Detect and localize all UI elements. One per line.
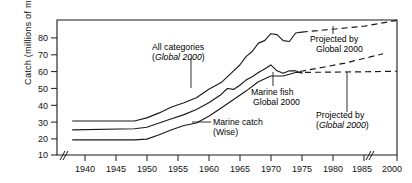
x-tick-1945: 1945 bbox=[106, 164, 126, 174]
x-tick-2000: 2000 bbox=[382, 164, 402, 174]
annotation-projected-bottom-line2: (Global 2000) bbox=[316, 120, 369, 130]
y-tick-50: 50 bbox=[38, 84, 48, 94]
series-all-categories-projection bbox=[302, 20, 397, 32]
x-axis-ticks bbox=[85, 155, 397, 161]
annotation-marine-catch-line2: (Wise) bbox=[213, 127, 238, 137]
y-tick-20: 20 bbox=[38, 134, 48, 144]
x-tick-1950: 1950 bbox=[137, 164, 157, 174]
x-tick-1955: 1955 bbox=[168, 164, 188, 174]
chart-figure: Catch (millions of metric tonnes) 80 70 … bbox=[0, 0, 412, 183]
y-axis-tick-labels: 80 70 60 50 40 30 20 10 bbox=[38, 33, 48, 160]
annotation-marine-fish: Marine fish Global 2000 bbox=[251, 87, 300, 107]
x-tick-1980: 1980 bbox=[323, 164, 343, 174]
annotation-projected-top: Projected by Global 2000 bbox=[310, 34, 363, 54]
x-tick-1975: 1975 bbox=[292, 164, 312, 174]
annotation-marine-catch: Marine catch (Wise) bbox=[213, 117, 263, 137]
y-tick-60: 60 bbox=[38, 67, 48, 77]
annotation-all-categories-line1: All categories bbox=[152, 42, 205, 52]
annotation-projected-top-line1: Projected by bbox=[310, 34, 359, 44]
x-tick-1940: 1940 bbox=[75, 164, 95, 174]
x-tick-1960: 1960 bbox=[199, 164, 219, 174]
annotation-projected-bottom-line1: Projected by bbox=[316, 110, 365, 120]
y-tick-10: 10 bbox=[38, 150, 48, 160]
x-tick-1985: 1985 bbox=[352, 164, 372, 174]
chart-plot: 80 70 60 50 40 30 20 10 bbox=[0, 0, 412, 183]
annotation-marine-catch-line1: Marine catch bbox=[213, 117, 263, 127]
y-tick-80: 80 bbox=[38, 33, 48, 43]
annotation-marine-fish-line2: Global 2000 bbox=[253, 97, 300, 107]
annotation-all-categories-line2: (Global 2000) bbox=[152, 52, 205, 62]
annotation-projected-bottom: Projected by (Global 2000) bbox=[316, 110, 369, 130]
y-tick-70: 70 bbox=[38, 50, 48, 60]
annotation-marine-fish-line1: Marine fish bbox=[251, 87, 294, 97]
series-marine-fish-projection-flat bbox=[295, 71, 397, 72]
x-axis-tick-labels: 1940 1945 1950 1955 1960 1965 1970 1975 … bbox=[75, 164, 402, 174]
series-marine-fish-projection-rising bbox=[300, 54, 383, 72]
y-axis-ticks bbox=[51, 38, 57, 155]
annotation-all-categories: All categories (Global 2000) bbox=[152, 42, 205, 62]
y-tick-40: 40 bbox=[38, 101, 48, 111]
annotation-projected-top-line2: Global 2000 bbox=[316, 44, 363, 54]
y-tick-30: 30 bbox=[38, 118, 48, 128]
x-tick-1970: 1970 bbox=[261, 164, 281, 174]
x-tick-1965: 1965 bbox=[230, 164, 250, 174]
